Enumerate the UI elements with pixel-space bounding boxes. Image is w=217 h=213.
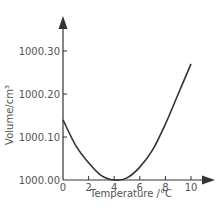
y-axis-label: Volume/cm³ (4, 85, 15, 145)
x-axis-arrow-icon (202, 176, 215, 185)
y-tick-label: 1000.00 (19, 175, 60, 186)
y-axis-arrow-icon (59, 16, 68, 29)
y-tick-label: 1000.10 (19, 132, 60, 143)
volume-temperature-chart: 1000.001000.101000.201000.30 0246810 Tem… (0, 0, 217, 213)
y-ticks: 1000.001000.101000.201000.30 (19, 46, 67, 186)
y-tick-label: 1000.30 (19, 46, 60, 57)
y-tick-label: 1000.20 (19, 89, 60, 100)
x-tick-label: 10 (185, 182, 198, 193)
x-tick-label: 0 (60, 182, 66, 193)
x-axis-label: Temperature /°C (89, 188, 172, 199)
data-curve (63, 64, 191, 180)
